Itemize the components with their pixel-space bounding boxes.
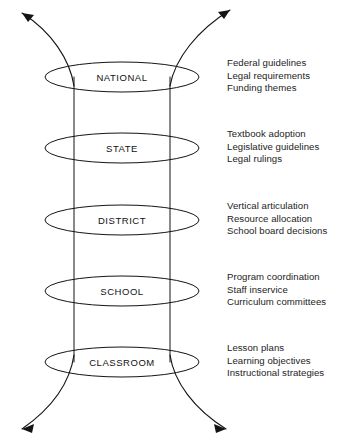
annotation-text: Vertical articulation (227, 200, 309, 211)
level-school[interactable]: SCHOOL (45, 276, 199, 306)
annotation-text: Instructional strategies (227, 367, 324, 378)
annotation-text: Program coordination (227, 271, 320, 282)
level-state[interactable]: STATE (45, 133, 199, 163)
annotations-national: Federal guidelines Legal requirements Fu… (227, 57, 310, 93)
annotation-text: Learning objectives (227, 355, 311, 366)
annotations-district: Vertical articulation Resource allocatio… (227, 200, 327, 236)
annotation-text: Textbook adoption (227, 128, 306, 139)
level-label-state: STATE (106, 143, 138, 154)
curriculum-levels-diagram: NATIONAL Federal guidelines Legal requir… (0, 0, 354, 443)
annotation-text: Legal requirements (227, 70, 310, 81)
annotation-text: Lesson plans (227, 342, 284, 353)
diagram-canvas: NATIONAL Federal guidelines Legal requir… (0, 0, 354, 443)
annotation-text: Resource allocation (227, 213, 312, 224)
top-right-outflow-arrow (170, 10, 230, 86)
level-national[interactable]: NATIONAL (45, 62, 199, 92)
annotation-text: Staff inservice (227, 284, 288, 295)
level-district[interactable]: DISTRICT (45, 205, 199, 235)
annotation-text: School board decisions (227, 225, 327, 236)
annotation-text: Curriculum committees (227, 296, 326, 307)
bottom-right-outflow-arrow (170, 355, 226, 433)
annotations-state: Textbook adoption Legislative guidelines… (227, 128, 319, 164)
arrow-head-icon (218, 10, 230, 19)
level-label-national: NATIONAL (96, 72, 147, 83)
top-left-outflow-arrow (22, 13, 74, 86)
level-classroom[interactable]: CLASSROOM (45, 347, 199, 377)
annotations-school: Program coordination Staff inservice Cur… (227, 271, 326, 307)
level-label-district: DISTRICT (98, 215, 146, 226)
annotations-classroom: Lesson plans Learning objectives Instruc… (227, 342, 324, 378)
annotation-text: Legal rulings (227, 153, 282, 164)
level-label-school: SCHOOL (100, 286, 143, 297)
annotation-text: Funding themes (227, 82, 297, 93)
annotation-text: Legislative guidelines (227, 141, 319, 152)
level-label-classroom: CLASSROOM (89, 357, 155, 368)
annotation-text: Federal guidelines (227, 57, 306, 68)
